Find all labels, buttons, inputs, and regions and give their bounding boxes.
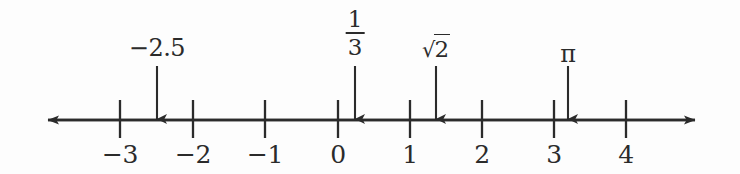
tick-label-1: 1 [402, 142, 417, 167]
tick-label--3: −3 [102, 142, 138, 167]
pointer-arrows-group [157, 66, 568, 119]
tick-label--1: −1 [247, 142, 283, 167]
tick-label-2: 2 [474, 142, 489, 167]
point-label-negative-two-point-five: −2.5 [129, 36, 185, 60]
tick-label-4: 4 [618, 142, 633, 167]
tick-label--2: −2 [175, 142, 211, 167]
fraction-denominator: 3 [346, 35, 365, 59]
point-label-square-root-of-two: √2 [422, 38, 450, 61]
number-line-figure: −3−2−101234 −2.513√2π [0, 0, 740, 174]
radicand-overbar: 2 [434, 34, 450, 62]
tick-label-0: 0 [330, 142, 345, 167]
tick-label-3: 3 [546, 142, 561, 167]
radicand-value: 2 [434, 38, 449, 61]
point-label-pi: π [560, 42, 575, 66]
fraction-numerator: 1 [346, 8, 365, 32]
fraction-one-third: 13 [346, 8, 365, 60]
point-label-one-third: 13 [346, 8, 365, 60]
radical-square-root-of-two: √2 [422, 38, 450, 61]
